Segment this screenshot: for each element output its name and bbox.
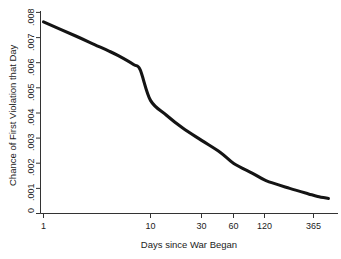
x-tick-label-1: 1	[41, 221, 46, 231]
x-tick-label-60: 60	[228, 221, 238, 231]
chart-figure: Chance of First Violation that Day 0 .00…	[0, 0, 341, 259]
y-tick-label-001: .001	[26, 183, 36, 201]
y-tick-label-003: .003	[26, 133, 36, 151]
x-tick-label-120: 120	[257, 221, 272, 231]
y-tick-label-002: .002	[26, 158, 36, 176]
y-tick-label-008: .008	[26, 8, 36, 26]
x-axis-title: Days since War Began	[141, 239, 237, 250]
y-tick-label-004: .004	[26, 108, 36, 126]
y-axis-title: Chance of First Violation that Day	[7, 44, 18, 186]
first-violation-line-chart: Chance of First Violation that Day 0 .00…	[0, 0, 341, 259]
y-tick-label-005: .005	[26, 83, 36, 101]
x-tick-label-30: 30	[196, 221, 206, 231]
x-tick-label-365: 365	[306, 221, 321, 231]
series-line-chance-of-first-violation	[44, 22, 329, 198]
y-tick-label-006: .006	[26, 58, 36, 76]
x-tick-label-10: 10	[145, 221, 155, 231]
y-tick-label-0: 0	[26, 208, 36, 213]
y-tick-label-007: .007	[26, 33, 36, 51]
